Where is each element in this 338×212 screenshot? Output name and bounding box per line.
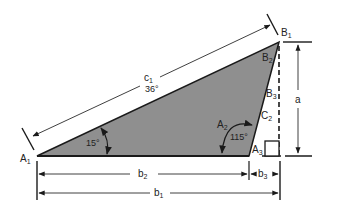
label-b3: b3	[258, 168, 268, 180]
label-angle-115: 115°	[230, 132, 248, 142]
label-A1: A1	[20, 153, 31, 165]
label-c1: c1	[144, 72, 153, 84]
c1-tick-left	[22, 128, 34, 150]
label-C2: C2	[261, 110, 272, 122]
label-c1-angle: 36°	[145, 84, 159, 94]
right-angle-marker	[265, 141, 279, 156]
c1-tick-right	[267, 14, 278, 35]
label-B3: B3	[266, 88, 277, 100]
label-angle-15: 15°	[86, 138, 100, 148]
label-a: a	[295, 94, 301, 105]
label-b2: b2	[138, 168, 148, 180]
label-A3: A3	[252, 144, 263, 156]
oblique-triangle-diagram: A1 B1 B2 B3 C2 A2 A3 c1 36° a b2 b3 b1 1…	[0, 0, 338, 212]
label-B1: B1	[281, 27, 292, 39]
label-b1: b1	[154, 187, 164, 199]
